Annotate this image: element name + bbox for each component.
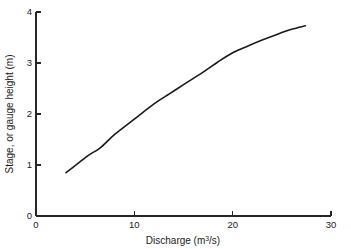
x-axis-ticks: 0102030 [33, 211, 336, 230]
x-tick-label: 30 [326, 219, 337, 230]
y-tick-label: 3 [27, 57, 32, 68]
y-axis-title: Stage, or gauge height (m) [4, 55, 15, 174]
y-tick-label: 4 [27, 6, 32, 17]
x-axis-title: Discharge (m3/s) [146, 235, 220, 247]
series-group [66, 26, 305, 173]
x-axis-title-main: Discharge (m [146, 235, 205, 246]
series-line [66, 26, 305, 173]
rating-curve-chart: 01234 0102030 Discharge (m3/s) Stage, or… [0, 0, 351, 249]
y-axis-ticks: 01234 [27, 6, 41, 221]
axes-group [36, 12, 331, 216]
chart-figure: 01234 0102030 Discharge (m3/s) Stage, or… [0, 0, 351, 249]
x-tick-label: 10 [129, 219, 140, 230]
y-tick-label: 0 [27, 210, 32, 221]
y-tick-label: 2 [27, 108, 32, 119]
x-tick-label: 20 [227, 219, 238, 230]
x-axis-title-tail: /s) [209, 235, 220, 246]
x-tick-label: 0 [33, 219, 38, 230]
y-tick-label: 1 [27, 159, 32, 170]
